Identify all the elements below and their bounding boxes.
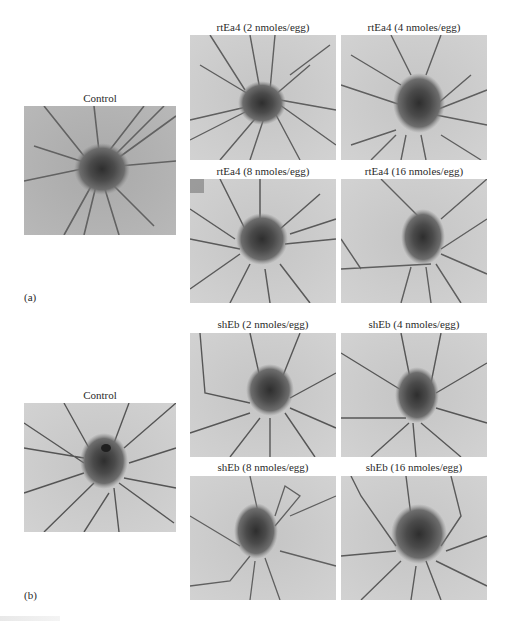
panel-a-caption-8: rtEa4 (8 nmoles/egg) [190, 165, 336, 177]
panel-a-caption-16: rtEa4 (16 nmoles/egg) [341, 165, 487, 177]
panel-b-control-caption: Control [24, 389, 176, 401]
panel-a-control-image [24, 106, 176, 235]
panel-a-image-4 [341, 35, 487, 160]
clipped-caption-remnant [0, 616, 60, 621]
panel-b-control-image [24, 403, 176, 532]
panel-b-caption-8: shEb (8 nmoles/egg) [190, 461, 336, 473]
panel-b-image-16 [341, 476, 487, 600]
panel-a-image-2 [190, 35, 336, 160]
panel-a-image-8 [190, 179, 336, 303]
panel-b-caption-16: shEb (16 nmoles/egg) [341, 461, 487, 473]
panel-b-image-4 [341, 333, 487, 457]
panel-b-image-8 [190, 476, 336, 600]
panel-b-caption-4: shEb (4 nmoles/egg) [341, 318, 487, 330]
panel-a-control-caption: Control [24, 92, 176, 104]
panel-b-caption-2: shEb (2 nmoles/egg) [190, 318, 336, 330]
panel-a-image-16 [341, 179, 487, 303]
panel-a-caption-4: rtEa4 (4 nmoles/egg) [341, 21, 487, 33]
panel-b-image-2 [190, 333, 336, 457]
panel-a-tag: (a) [24, 291, 36, 303]
panel-a-caption-2: rtEa4 (2 nmoles/egg) [190, 21, 336, 33]
panel-b-tag: (b) [24, 589, 37, 601]
